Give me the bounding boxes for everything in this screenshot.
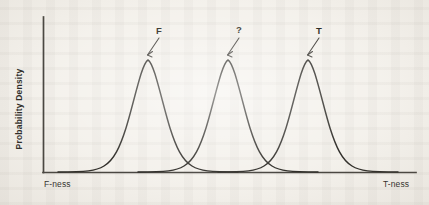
probability-density-chart xyxy=(0,0,429,205)
x-axis-label-left: F-ness xyxy=(44,180,71,189)
density-curves xyxy=(58,60,398,172)
arrow-down-left-icon-f xyxy=(148,38,160,57)
x-axis-label-right: T-ness xyxy=(383,180,409,189)
curve-q xyxy=(138,60,318,172)
chart-axes xyxy=(43,17,416,173)
curve-f xyxy=(58,60,238,172)
y-axis-label: Probability Density xyxy=(14,59,24,159)
curve-label-t: T xyxy=(316,26,322,36)
curve-label-f: F xyxy=(156,26,162,36)
curve-t xyxy=(218,60,398,172)
arrow-down-left-icon-q xyxy=(228,38,240,57)
curve-label-question: ? xyxy=(236,25,242,35)
annotation-arrows xyxy=(148,38,320,57)
arrow-down-left-icon-t xyxy=(308,38,320,57)
figure-container: Probability Density F-ness T-ness F ? T xyxy=(0,0,429,205)
